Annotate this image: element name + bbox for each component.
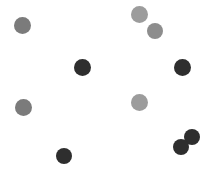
scatter-dot-light-gray <box>131 94 148 111</box>
scatter-canvas <box>0 0 213 174</box>
scatter-dot-dark <box>74 59 91 76</box>
scatter-dot-light-gray <box>131 6 148 23</box>
scatter-dot-dark <box>173 139 189 155</box>
scatter-dot-dark <box>56 148 72 164</box>
scatter-dot-light-gray <box>147 23 163 39</box>
scatter-dot-dark <box>174 59 191 76</box>
scatter-dot-medium-gray <box>15 99 32 116</box>
scatter-dot-medium-gray <box>14 17 31 34</box>
